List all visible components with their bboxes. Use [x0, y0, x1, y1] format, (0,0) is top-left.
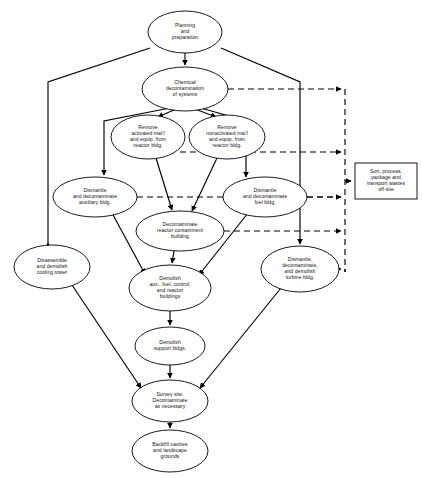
node-turbine-bldg[interactable]: Dismantle,decontaminate,and demolishturb…	[261, 246, 339, 292]
flowchart-canvas: PlanningandpreparationChemicaldecontamin…	[0, 0, 422, 478]
edge-turbine-to-survey	[200, 288, 281, 388]
node-cooling-tower[interactable]: Disassembleand demolishcooling tower	[14, 245, 90, 289]
node-label-cooling-tower: Disassembleand demolishcooling tower	[37, 257, 68, 275]
node-demolish-aux-fuel-control[interactable]: Demolishaux., fuel, control,and reactorb…	[129, 265, 211, 311]
node-remove-nonactivated[interactable]: Removenonactivated mat'land equip. fromr…	[189, 115, 265, 159]
node-planning[interactable]: Planningandpreparation	[148, 11, 222, 53]
edge-cooling-tower-to-survey	[72, 285, 141, 388]
edge-containment-to-demolish	[172, 251, 174, 263]
edge-remove-activated-to-containment	[156, 158, 172, 210]
node-remove-activated[interactable]: Removeactivated mat'land equip. fromreac…	[111, 115, 185, 159]
node-layer: PlanningandpreparationChemicaldecontamin…	[14, 11, 417, 472]
node-backfill[interactable]: Backfill cavitiesand landscapegrounds	[132, 430, 208, 472]
node-survey-site[interactable]: Survey site.Decontaminateas necessary	[132, 380, 208, 422]
edge-remove-nonactivated-to-containment	[192, 158, 217, 211]
node-chemical-decon[interactable]: Chemicaldecontaminationof systems	[142, 67, 228, 111]
node-sort-process-waste[interactable]: Sort, process,package andtransport waste…	[355, 163, 417, 199]
node-demolish-support[interactable]: Demolishsupport bldgs.	[135, 327, 205, 365]
node-decon-reactor-containment[interactable]: Decontaminatereactor containmentbuilding	[136, 211, 224, 251]
node-dismantle-auxiliary[interactable]: Dismantleand decontaminateauxiliary bldg…	[53, 177, 137, 217]
decommissioning-flowchart: PlanningandpreparationChemicaldecontamin…	[0, 0, 422, 478]
node-dismantle-fuel[interactable]: Dismantleand decontaminatefuel bldg.	[223, 177, 307, 217]
node-label-survey-site: Survey site.Decontaminateas necessary	[153, 391, 188, 409]
